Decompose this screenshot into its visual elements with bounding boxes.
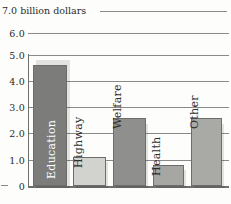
y-tick-5: 5.0 [0, 51, 25, 61]
y-tick-1: 1.0 [0, 156, 25, 166]
bar-label-education: Education [45, 120, 58, 179]
zero-dash [1, 185, 8, 186]
gridline-5 [28, 55, 229, 56]
chart-title: 7.0 billion dollars [2, 6, 86, 16]
y-tick-6: 6.0 [0, 29, 25, 39]
bar-education[interactable]: Education [33, 65, 67, 186]
y-tick-0: 0 [0, 182, 25, 192]
gridline-7 [100, 11, 227, 12]
bar-label-health: Health [150, 137, 163, 176]
bar-label-other: Other [188, 95, 201, 129]
y-tick-3: 3.0 [0, 103, 25, 113]
gridline-6 [28, 33, 229, 34]
bar-label-welfare: Welfare [111, 84, 124, 129]
bar-label-highway: Highway [72, 116, 85, 168]
y-tick-4: 4.0 [0, 77, 25, 87]
y-tick-2: 2.0 [0, 129, 25, 139]
y-axis [28, 54, 29, 187]
bar-chart: 7.0 billion dollars 6.0 5.0 4.0 3.0 2.0 … [0, 0, 231, 204]
